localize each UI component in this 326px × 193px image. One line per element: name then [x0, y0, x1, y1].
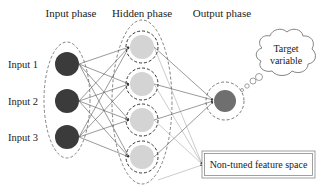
- hidden-node-1: [126, 31, 158, 63]
- hidden-phase-title: Hidden phase: [112, 7, 172, 19]
- target-cloud: Target variable: [256, 29, 315, 75]
- input-1-label: Input 1: [8, 59, 38, 70]
- input-node-3: [55, 125, 79, 149]
- target-label-line2: variable: [270, 55, 303, 66]
- input-node-1: [55, 52, 79, 76]
- input-node-2: [55, 89, 79, 113]
- input-3-label: Input 3: [8, 132, 38, 143]
- hidden-node-4: [126, 141, 158, 173]
- feature-space-label: Non-tuned feature space: [210, 159, 308, 170]
- input-hidden-edges: [79, 47, 129, 157]
- hidden-node-2: [126, 68, 158, 100]
- output-phase-title: Output phase: [193, 7, 251, 19]
- input-phase-title: Input phase: [45, 7, 96, 19]
- hidden-node-3: [126, 104, 158, 136]
- hidden-feature-edges: [154, 47, 202, 180]
- target-label-line1: Target: [273, 43, 298, 54]
- thought-bubbles: [241, 74, 263, 92]
- neural-network-diagram: Input phase Hidden phase Output phase In…: [0, 0, 326, 193]
- hidden-output-edges: [154, 47, 213, 157]
- input-2-label: Input 2: [8, 96, 38, 107]
- output-node: [206, 82, 244, 120]
- feature-space-box: Non-tuned feature space: [202, 151, 315, 178]
